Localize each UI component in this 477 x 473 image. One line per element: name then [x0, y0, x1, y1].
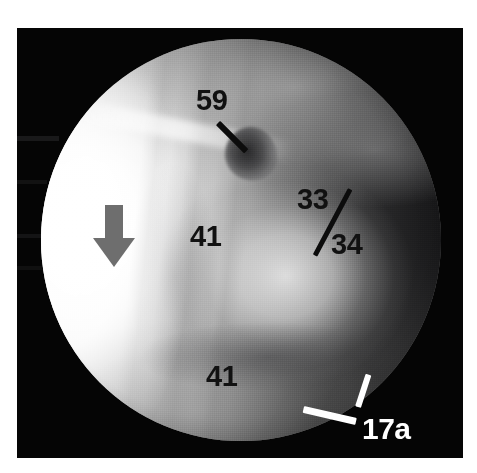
endoscopic-field-of-view [41, 39, 441, 441]
figure-root: 59 41 33 34 41 17a [0, 0, 477, 473]
scan-band [17, 266, 43, 270]
photographic-plate: 59 41 33 34 41 17a [17, 28, 463, 458]
halftone-grain [41, 39, 441, 441]
